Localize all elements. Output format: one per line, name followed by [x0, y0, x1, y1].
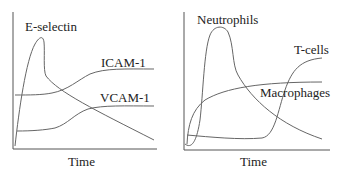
- vcam-1-curve: [17, 106, 154, 131]
- e-selectin-label: E-selectin: [25, 19, 77, 34]
- neutrophils-label: Neutrophils: [197, 12, 258, 27]
- right-x-axis-label: Time: [240, 154, 267, 169]
- vcam-1-label: VCAM-1: [100, 90, 150, 105]
- left-x-axis-label: Time: [68, 154, 95, 169]
- icam-1-label: ICAM-1: [101, 55, 146, 70]
- figure: E-selectin ICAM-1 VCAM-1 Time Neutrophil…: [0, 0, 342, 174]
- right-panel: Neutrophils T-cells Macrophages Time: [184, 12, 330, 169]
- macrophages-label: Macrophages: [260, 85, 330, 100]
- t-cells-label: T-cells: [294, 42, 329, 57]
- left-panel: E-selectin ICAM-1 VCAM-1 Time: [13, 12, 157, 169]
